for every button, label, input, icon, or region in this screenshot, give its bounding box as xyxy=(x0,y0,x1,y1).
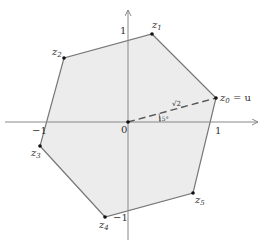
y-tick-neg1: −1 xyxy=(113,212,128,223)
angle-label: 15° xyxy=(158,115,169,122)
radius-label: √2 xyxy=(172,100,181,108)
y-tick-1: 1 xyxy=(120,25,126,36)
vertex-z1 xyxy=(150,32,154,36)
complex-plane-diagram: z0 = u z1 z2 z3 z4 z5 0 1 −1 1 −1 √2 15° xyxy=(0,0,268,252)
label-z0: z0 = u xyxy=(219,92,251,105)
vertex-z3 xyxy=(38,144,42,148)
x-tick-1: 1 xyxy=(215,125,221,136)
label-z3: z3 xyxy=(30,147,41,160)
label-z1: z1 xyxy=(151,19,162,32)
label-z5: z5 xyxy=(194,194,205,207)
origin-label: 0 xyxy=(121,124,127,135)
x-tick-neg1: −1 xyxy=(32,125,47,136)
vertex-z2 xyxy=(62,56,66,60)
label-z4: z4 xyxy=(98,219,109,232)
vertex-z0 xyxy=(214,96,218,100)
label-z2: z2 xyxy=(51,46,62,59)
